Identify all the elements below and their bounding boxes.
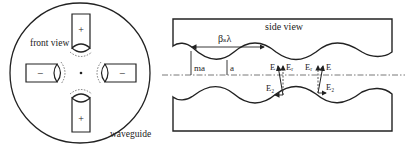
vane-left: − <box>26 62 65 84</box>
vane-top: + <box>70 14 92 57</box>
field-Er-right: Eᵣ <box>305 62 312 72</box>
side-view: βₛλ ma a E Eᵣ E₂ Eᵣ E E₂ side view <box>162 19 405 131</box>
front-view-label: front view <box>30 38 69 48</box>
field-Er-left: Eᵣ <box>286 62 293 72</box>
front-view: + + − − front view waveguide <box>10 3 151 143</box>
period-label: βₛλ <box>218 33 231 44</box>
vane-top-sign: + <box>78 24 84 35</box>
side-view-label: side view <box>265 21 304 32</box>
beam-axis-dot <box>80 72 83 75</box>
vane-right: − <box>97 62 136 84</box>
field-Ez-left: E₂ <box>266 83 274 93</box>
field-vectors-right: Eᵣ E E₂ <box>305 62 334 93</box>
field-E-left: E <box>270 62 275 72</box>
min-aperture-label: a <box>230 63 234 73</box>
max-aperture-label: ma <box>194 63 205 73</box>
field-E-right: E <box>326 62 331 72</box>
field-Ez-right: E₂ <box>326 82 334 92</box>
waveguide-label: waveguide <box>110 129 151 139</box>
vane-bottom-sign: + <box>78 113 84 124</box>
vane-bottom: + <box>70 90 92 133</box>
rfq-diagram: + + − − front view waveguide <box>0 0 412 146</box>
vane-left-sign: − <box>37 67 43 79</box>
vane-right-sign: − <box>119 67 125 79</box>
